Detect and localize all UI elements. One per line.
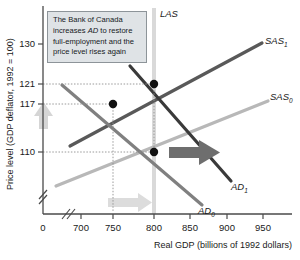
las-label: LAS — [160, 8, 179, 19]
sas0-label: SAS0 — [270, 91, 293, 104]
y-tick-label-117: 117 — [20, 98, 35, 109]
y-tick-label-110: 110 — [20, 146, 35, 157]
equilibrium-point-800-121 — [150, 80, 158, 88]
ad0-label: AD0 — [197, 205, 215, 218]
callout-line-3: full-employment and the — [53, 37, 142, 48]
ad0-curve — [62, 85, 202, 205]
y-tick-label-130: 130 — [19, 38, 35, 49]
callout-line-4: price level rises again — [53, 47, 142, 58]
x-axis-title: Real GDP (billions of 1992 dollars) — [154, 240, 292, 250]
x-tick-marks — [81, 214, 263, 219]
x-tick-label-800: 800 — [146, 222, 162, 233]
x-tick-label-0: 0 — [40, 222, 45, 233]
ad1-label: AD1 — [230, 181, 248, 194]
y-tick-marks — [38, 44, 43, 152]
chart-canvas: 130 121 117 110 0 700 750 800 850 900 95… — [0, 0, 300, 260]
x-tick-label-750: 750 — [105, 222, 121, 233]
x-tick-label-850: 850 — [182, 222, 198, 233]
y-tick-label-121: 121 — [19, 78, 35, 89]
equilibrium-point-800-110 — [150, 148, 158, 156]
as-ad-diagram: 130 121 117 110 0 700 750 800 850 900 95… — [0, 0, 300, 260]
callout-line-1: The Bank of Canada — [53, 15, 142, 26]
callout-line-2: increases AD to restore — [53, 26, 142, 37]
equilibrium-point-750-117 — [109, 100, 117, 108]
sas1-label: SAS1 — [265, 35, 288, 48]
sas0-curve — [56, 101, 268, 186]
x-tick-label-700: 700 — [73, 222, 89, 233]
x-tick-label-950: 950 — [255, 222, 271, 233]
annotation-textbox: The Bank of Canada increases AD to resto… — [47, 11, 147, 63]
y-axis-title: Price level (GDP deflator, 1992 = 100) — [5, 38, 15, 190]
gdp-rise-ghost-arrow — [108, 193, 152, 212]
x-tick-label-900: 900 — [219, 222, 235, 233]
